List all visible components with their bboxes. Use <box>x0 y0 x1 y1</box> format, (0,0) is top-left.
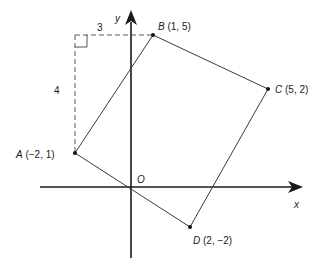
coordinate-diagram: y x O 3 4 B (1, 5) A (−2, 1) C (5, 2) D … <box>0 0 330 271</box>
x-axis-label: x <box>293 199 300 210</box>
label-c: C (5, 2) <box>275 84 308 95</box>
point-b <box>151 33 155 37</box>
label-a: A (−2, 1) <box>15 149 55 160</box>
point-c <box>266 87 270 91</box>
label-d: D (2, −2) <box>193 235 232 246</box>
square-abcd <box>75 35 268 227</box>
point-a <box>73 151 77 155</box>
label-b: B (1, 5) <box>158 21 191 32</box>
right-angle-marker <box>75 35 87 47</box>
point-d <box>188 225 192 229</box>
y-axis-label: y <box>114 13 121 24</box>
origin-label: O <box>137 174 145 185</box>
length-3-label: 3 <box>97 22 103 33</box>
length-4-label: 4 <box>54 85 60 96</box>
